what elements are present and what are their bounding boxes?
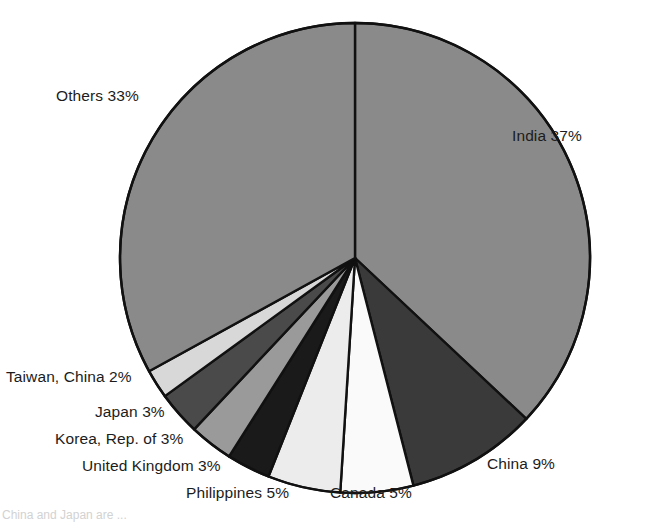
- slice-label-philippines: Philippines 5%: [186, 484, 289, 501]
- slice-label-canada: Canada 5%: [330, 484, 412, 501]
- slice-label-others: Others 33%: [56, 87, 139, 104]
- chart-footnote: China and Japan are ...: [2, 508, 127, 522]
- slice-label-japan: Japan 3%: [95, 403, 165, 420]
- slice-label-korea-rep-of: Korea, Rep. of 3%: [55, 430, 183, 447]
- slice-label-united-kingdom: United Kingdom 3%: [82, 457, 221, 474]
- slice-label-taiwan-china: Taiwan, China 2%: [6, 368, 132, 385]
- slice-label-india: India 37%: [512, 127, 582, 144]
- slice-label-china: China 9%: [487, 455, 555, 472]
- pie-slice-group: [120, 23, 590, 493]
